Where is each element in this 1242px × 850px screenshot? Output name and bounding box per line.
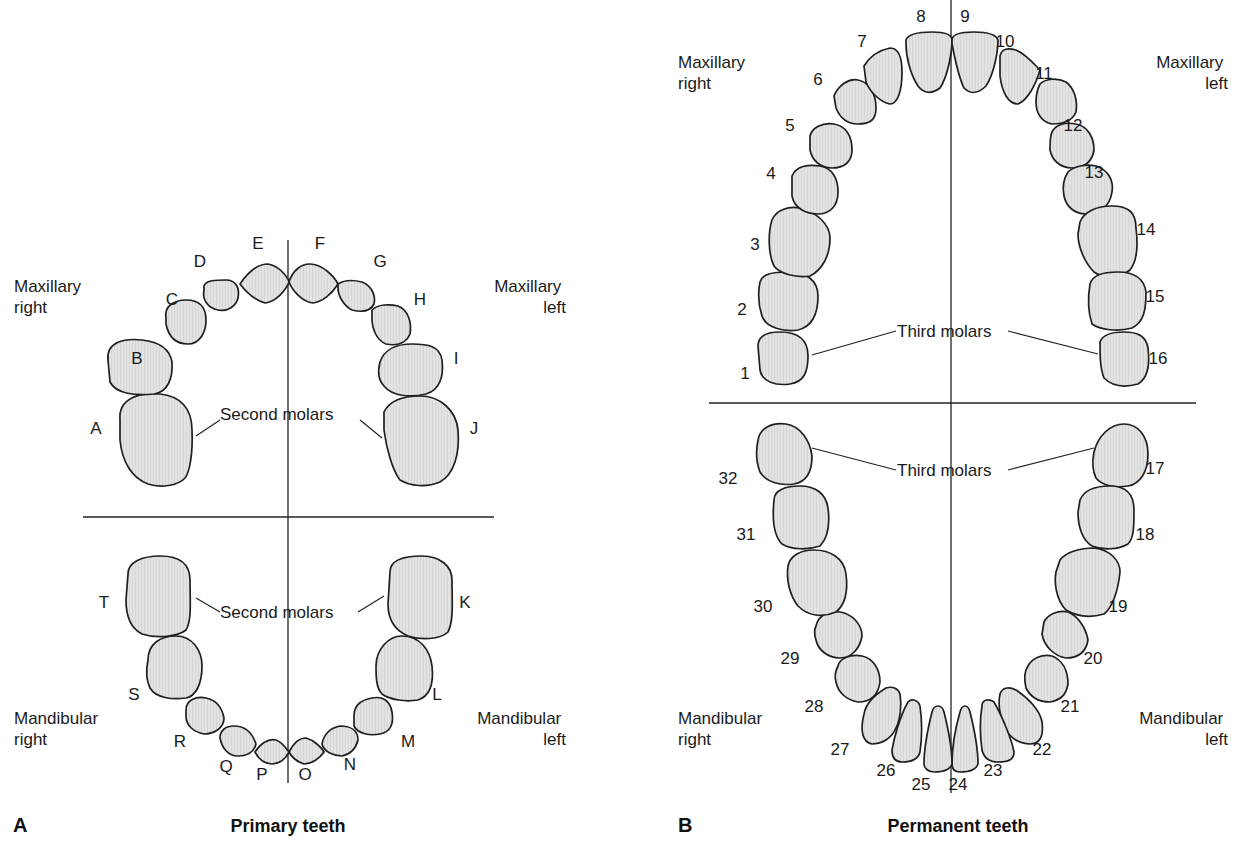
tooth-label-R: R: [174, 732, 186, 751]
annotation-third-molars-lower: Third molars: [897, 461, 991, 480]
tooth-G: [338, 281, 375, 311]
tooth-O: [289, 738, 324, 764]
tooth-Q: [220, 726, 256, 756]
annotation-third-molars-upper: Third molars: [897, 322, 991, 341]
quadrant-maxillary-left: Maxillary left: [1156, 53, 1228, 93]
tooth-label-7: 7: [857, 32, 866, 51]
tooth-10: [1000, 49, 1040, 104]
tooth-32: [757, 424, 812, 485]
tooth-21: [1025, 655, 1068, 702]
tooth-P: [255, 740, 289, 764]
tooth-label-12: 12: [1064, 116, 1083, 135]
primary-teeth-group: [108, 264, 459, 764]
leader-line: [812, 448, 896, 470]
leaders-primary: [196, 420, 384, 612]
annotation-second-molars-lower: Second molars: [220, 603, 333, 622]
tooth-label-H: H: [414, 290, 426, 309]
tooth-16: [1100, 332, 1149, 386]
panel-letter-b: B: [678, 814, 692, 836]
tooth-F: [289, 264, 338, 303]
leader-line: [1008, 448, 1094, 470]
quadrant-mandibular-right: Mandibular right: [678, 709, 767, 749]
tooth-label-J: J: [470, 419, 479, 438]
tooth-label-22: 22: [1033, 740, 1052, 759]
quadrant-maxillary-right: Maxillary right: [678, 53, 750, 93]
tooth-28: [835, 655, 880, 702]
tooth-29: [815, 612, 863, 658]
tooth-label-30: 30: [754, 597, 773, 616]
tooth-label-8: 8: [916, 7, 925, 26]
tooth-N: [322, 726, 358, 756]
tooth-label-D: D: [194, 252, 206, 271]
tooth-label-29: 29: [781, 649, 800, 668]
panel-title-permanent: Permanent teeth: [887, 816, 1028, 836]
panel-title-primary: Primary teeth: [230, 816, 345, 836]
tooth-K: [388, 556, 452, 639]
tooth-17: [1093, 424, 1148, 487]
leader-line: [812, 331, 896, 355]
tooth-label-11: 11: [1035, 64, 1053, 83]
tooth-label-O: O: [298, 765, 311, 784]
tooth-I: [379, 344, 443, 396]
tooth-20: [1042, 611, 1088, 658]
tooth-label-P: P: [256, 765, 267, 784]
tooth-L: [376, 636, 432, 701]
quadrant-mandibular-right: Mandibular right: [14, 709, 103, 749]
tooth-9: [952, 32, 998, 92]
leader-line: [196, 420, 220, 436]
tooth-label-28: 28: [805, 697, 824, 716]
tooth-H: [372, 305, 411, 345]
leader-line: [360, 420, 382, 438]
tooth-label-L: L: [432, 685, 441, 704]
tooth-4: [792, 165, 838, 214]
tooth-label-23: 23: [984, 761, 1003, 780]
tooth-M: [354, 698, 393, 735]
leaders-permanent: [812, 331, 1098, 470]
tooth-label-16: 16: [1149, 349, 1168, 368]
tooth-label-25: 25: [912, 775, 931, 794]
tooth-label-21: 21: [1061, 697, 1080, 716]
tooth-25: [924, 706, 952, 772]
tooth-14: [1078, 206, 1137, 276]
tooth-label-S: S: [128, 685, 139, 704]
tooth-label-I: I: [454, 349, 459, 368]
tooth-5: [810, 124, 852, 168]
tooth-E: [240, 264, 289, 303]
leader-line: [196, 598, 220, 612]
tooth-label-2: 2: [737, 300, 746, 319]
tooth-label-19: 19: [1109, 597, 1128, 616]
tooth-30: [787, 550, 846, 615]
tooth-8: [906, 32, 952, 92]
tooth-label-32: 32: [719, 469, 738, 488]
tooth-1: [758, 332, 808, 384]
tooth-label-C: C: [166, 290, 178, 309]
tooth-label-17: 17: [1146, 459, 1165, 478]
tooth-label-4: 4: [766, 164, 775, 183]
tooth-label-10: 10: [996, 32, 1015, 51]
tooth-label-26: 26: [877, 761, 896, 780]
tooth-label-F: F: [315, 234, 325, 253]
tooth-label-15: 15: [1146, 287, 1165, 306]
tooth-label-M: M: [401, 732, 415, 751]
tooth-18: [1078, 486, 1134, 549]
tooth-S: [147, 636, 202, 699]
panel-letter-a: A: [13, 814, 27, 836]
quadrant-maxillary-left: Maxillary left: [494, 277, 566, 317]
tooth-label-A: A: [90, 419, 102, 438]
panel-permanent-teeth: 1234567891011121314151617181920212223242…: [678, 0, 1228, 836]
tooth-label-K: K: [459, 593, 471, 612]
annotation-second-molars-upper: Second molars: [220, 405, 333, 424]
tooth-label-Q: Q: [219, 757, 232, 776]
tooth-D: [204, 280, 239, 310]
axes-permanent: [709, 0, 1196, 793]
tooth-label-N: N: [344, 755, 356, 774]
tooth-J: [384, 396, 458, 486]
primary-teeth-labels: ABCDEFGHIJKLMNOPQRST: [90, 234, 478, 784]
tooth-label-B: B: [131, 349, 142, 368]
tooth-24: [952, 706, 978, 772]
tooth-label-T: T: [99, 593, 109, 612]
tooth-2: [759, 272, 818, 330]
leader-line: [1008, 331, 1098, 354]
tooth-label-3: 3: [750, 235, 759, 254]
quadrant-mandibular-left: Mandibular left: [1139, 709, 1228, 749]
